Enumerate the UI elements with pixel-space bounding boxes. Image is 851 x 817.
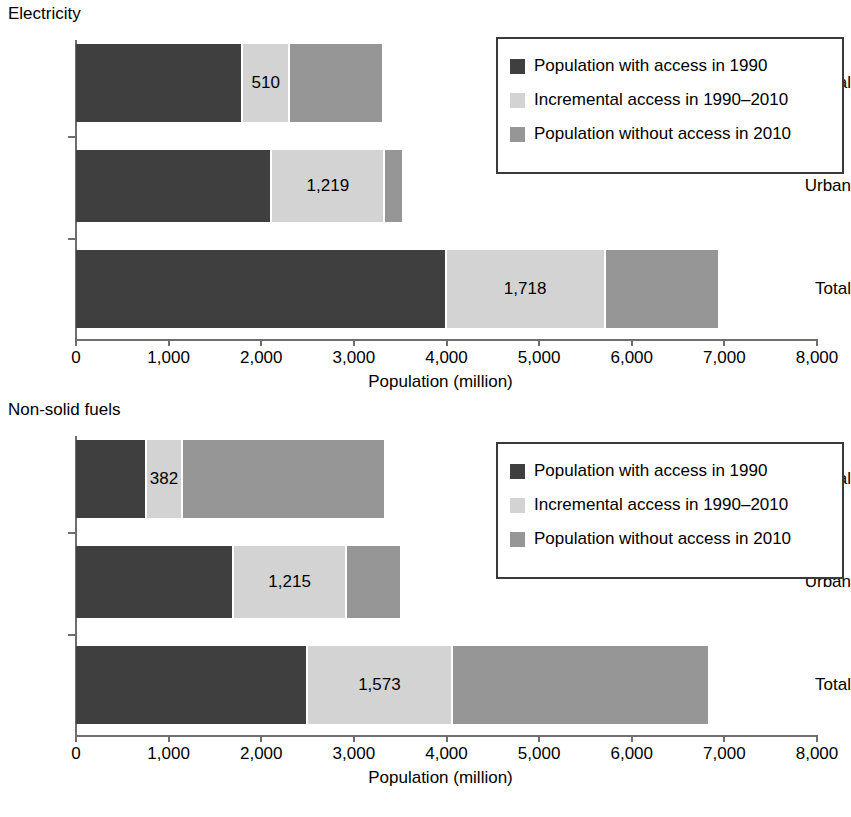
bar-segment	[385, 150, 402, 222]
bar-segment: 382	[147, 440, 180, 518]
category-label-total: Total	[783, 675, 851, 695]
legend-swatch-icon	[510, 127, 525, 142]
bar-segment: 1,215	[234, 546, 345, 618]
bar-value-label: 1,573	[358, 675, 401, 695]
legend-label: Population without access in 2010	[534, 124, 791, 144]
legend-electricity: Population with access in 1990Incrementa…	[496, 37, 844, 174]
x-tick-label: 1,000	[124, 744, 214, 764]
legend-label: Population with access in 1990	[534, 461, 767, 481]
y-tick	[68, 238, 76, 240]
x-tick-4000	[446, 735, 448, 742]
bar-segment: 510	[243, 44, 288, 122]
legend-item: Population with access in 1990	[510, 454, 828, 488]
x-tick-4000	[446, 339, 448, 346]
legend-label: Population without access in 2010	[534, 529, 791, 549]
x-tick-label: 0	[31, 744, 121, 764]
legend-item: Population without access in 2010	[510, 522, 828, 556]
bar-segment	[76, 546, 232, 618]
x-tick-label: 6,000	[587, 744, 677, 764]
legend-swatch-icon	[510, 93, 525, 108]
bar-value-label: 510	[252, 73, 280, 93]
x-tick-6000	[631, 735, 633, 742]
x-tick-label: 5,000	[494, 744, 584, 764]
y-tick	[68, 532, 76, 534]
bar-value-label: 1,718	[504, 279, 547, 299]
bar-segment	[453, 646, 708, 724]
x-tick-1000	[168, 339, 170, 346]
x-tick-label: 4,000	[402, 744, 492, 764]
x-tick-2000	[260, 339, 262, 346]
x-tick-label: 7,000	[679, 744, 769, 764]
bar-value-label: 382	[150, 469, 178, 489]
x-tick-5000	[538, 735, 540, 742]
x-tick-label: 8,000	[772, 744, 851, 764]
category-label-urban: Urban	[783, 176, 851, 196]
x-tick-label: 2,000	[216, 744, 306, 764]
bar-segment	[76, 44, 241, 122]
x-tick-label: 4,000	[402, 348, 492, 368]
bar-segment	[606, 250, 718, 328]
legend-non-solid-fuels: Population with access in 1990Incrementa…	[496, 442, 844, 579]
bar-segment	[290, 44, 382, 122]
x-axis-title-electricity: Population (million)	[0, 372, 851, 392]
x-tick-label: 0	[31, 348, 121, 368]
legend-swatch-icon	[510, 464, 525, 479]
y-tick	[68, 136, 76, 138]
x-tick-6000	[631, 339, 633, 346]
bar-segment: 1,219	[272, 150, 383, 222]
x-axis-title-non-solid-fuels: Population (million)	[0, 768, 851, 788]
x-tick-label: 5,000	[494, 348, 584, 368]
x-tick-label: 1,000	[124, 348, 214, 368]
x-tick-1000	[168, 735, 170, 742]
y-tick	[68, 634, 76, 636]
legend-item: Population with access in 1990	[510, 49, 828, 83]
x-tick-label: 3,000	[309, 348, 399, 368]
legend-swatch-icon	[510, 498, 525, 513]
bar-segment: 1,718	[447, 250, 604, 328]
bar-segment: 1,573	[308, 646, 452, 724]
x-tick-7000	[723, 339, 725, 346]
legend-item: Population without access in 2010	[510, 117, 828, 151]
x-tick-8000	[816, 339, 818, 346]
x-tick-label: 6,000	[587, 348, 677, 368]
bar-row: 1,573	[0, 646, 851, 724]
x-tick-7000	[723, 735, 725, 742]
bar-value-label: 1,219	[307, 176, 350, 196]
x-tick-3000	[353, 339, 355, 346]
x-tick-2000	[260, 735, 262, 742]
x-tick-label: 2,000	[216, 348, 306, 368]
bar-row: 1,718	[0, 250, 851, 328]
bar-segment	[76, 150, 270, 222]
bar-segment	[76, 250, 445, 328]
legend-swatch-icon	[510, 59, 525, 74]
x-tick-label: 8,000	[772, 348, 851, 368]
bar-segment	[183, 440, 384, 518]
legend-label: Population with access in 1990	[534, 56, 767, 76]
chart-panel-electricity: Electricity 01,0002,0003,0004,0005,0006,…	[0, 0, 851, 400]
bar-segment	[76, 440, 145, 518]
panel-title-non-solid-fuels: Non-solid fuels	[8, 400, 120, 420]
category-label-total: Total	[783, 279, 851, 299]
chart-panel-non-solid-fuels: Non-solid fuels 01,0002,0003,0004,0005,0…	[0, 396, 851, 817]
legend-item: Incremental access in 1990–2010	[510, 488, 828, 522]
x-tick-8000	[816, 735, 818, 742]
bar-segment	[347, 546, 400, 618]
legend-swatch-icon	[510, 532, 525, 547]
x-tick-5000	[538, 339, 540, 346]
panel-title-electricity: Electricity	[8, 4, 81, 24]
bar-segment	[76, 646, 306, 724]
x-tick-3000	[353, 735, 355, 742]
x-tick-label: 3,000	[309, 744, 399, 764]
legend-label: Incremental access in 1990–2010	[534, 90, 788, 110]
legend-label: Incremental access in 1990–2010	[534, 495, 788, 515]
x-tick-0	[75, 735, 77, 742]
legend-item: Incremental access in 1990–2010	[510, 83, 828, 117]
bar-value-label: 1,215	[268, 572, 311, 592]
x-tick-label: 7,000	[679, 348, 769, 368]
x-tick-0	[75, 339, 77, 346]
